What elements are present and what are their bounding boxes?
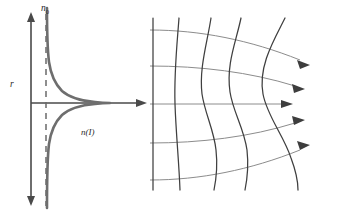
label-n0: n0 (41, 3, 49, 15)
vertical-axis-arrow-down-icon (27, 196, 35, 206)
label-r-axis: r (10, 79, 14, 89)
ray-arrowhead-3-icon (281, 100, 293, 108)
ray-arrowhead-1-icon (297, 60, 310, 69)
left-panel-index-profile: n0 r n(I) (10, 3, 147, 208)
right-panel-ray-wavefront (150, 18, 310, 190)
ray-trajectory-1 (150, 30, 300, 60)
ray-arrowhead-5-icon (297, 141, 310, 150)
ray-trajectory-4 (150, 123, 295, 143)
label-n-of-I: n(I) (81, 127, 95, 137)
self-focusing-figure: n0 r n(I) (0, 0, 347, 218)
vertical-axis-arrow-up-icon (27, 12, 35, 22)
ray-trajectory-5 (150, 150, 300, 180)
figure-root: n0 r n(I) (0, 0, 347, 218)
ray-trajectory-2 (150, 66, 295, 86)
horizontal-axis-arrow-right-icon (136, 99, 147, 107)
refractive-index-curve (47, 8, 110, 208)
ray-arrowhead-4-icon (292, 116, 305, 125)
ray-arrowhead-2-icon (292, 84, 305, 93)
